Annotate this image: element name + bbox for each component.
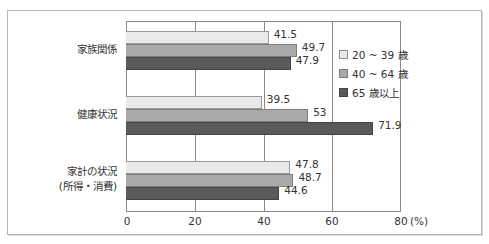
value-label: 53: [313, 106, 326, 118]
bar: [126, 44, 297, 57]
legend-swatch-dark: [339, 88, 348, 97]
legend-item-65-plus: 65 歳以上: [339, 83, 408, 102]
bar: [126, 122, 373, 135]
bar: [126, 96, 262, 109]
category-label-household: 家計の状況 (所得・消費): [59, 164, 117, 194]
x-tick-20: 20: [188, 215, 201, 227]
legend: 20 ~ 39 歳 40 ~ 64 歳 65 歳以上: [339, 45, 408, 102]
value-label: 48.7: [298, 171, 321, 183]
value-label: 47.9: [296, 54, 319, 66]
bar: [126, 174, 293, 187]
value-label: 71.9: [378, 119, 401, 131]
legend-swatch-mid: [339, 69, 348, 78]
value-label: 39.5: [267, 93, 290, 105]
value-label: 49.7: [302, 41, 325, 53]
bar: [126, 109, 308, 122]
bar: [126, 161, 290, 174]
legend-swatch-light: [339, 50, 348, 59]
bar: [126, 187, 279, 200]
value-label: 44.6: [284, 184, 307, 196]
legend-item-20-39: 20 ~ 39 歳: [339, 45, 408, 64]
value-label: 47.8: [295, 158, 318, 170]
x-tick-60: 60: [325, 215, 338, 227]
gridline-60: [332, 22, 333, 211]
x-tick-0: 0: [124, 215, 131, 227]
value-label: 41.5: [274, 28, 297, 40]
x-unit-label: (%): [410, 215, 428, 227]
category-label-family: 家族関係: [77, 42, 117, 57]
x-tick-80: 80: [394, 215, 407, 227]
x-tick-40: 40: [257, 215, 270, 227]
legend-item-40-64: 40 ~ 64 歳: [339, 64, 408, 83]
bar: [126, 57, 291, 70]
bar: [126, 31, 269, 44]
category-label-health: 健康状況: [77, 107, 117, 122]
